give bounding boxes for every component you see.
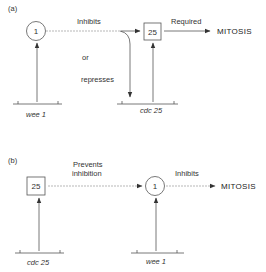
cdc25-node-label-b: 25 bbox=[32, 182, 41, 191]
panel-a: (a) 1 Inhibits or represses 25 Required … bbox=[8, 4, 252, 119]
wee1-gene-label-b: wee 1 bbox=[146, 257, 166, 266]
required-label: Required bbox=[171, 17, 201, 26]
cdc25-protein-node: 25 bbox=[144, 23, 161, 40]
cdc25-gene-label-b: cdc 25 bbox=[27, 258, 50, 267]
wee1-protein-node: 1 bbox=[27, 22, 46, 41]
prevents-label: Prevents bbox=[73, 160, 103, 169]
wee1-protein-node-b: 1 bbox=[146, 177, 165, 196]
cdc25-protein-node-b: 25 bbox=[27, 177, 45, 195]
or-label: or bbox=[82, 53, 89, 62]
wee1-node-label: 1 bbox=[34, 27, 39, 36]
inhibits-label-b: Inhibits bbox=[175, 169, 199, 178]
panel-b-label: (b) bbox=[8, 156, 18, 165]
represses-label: represses bbox=[81, 75, 114, 84]
diagram-canvas: (a) 1 Inhibits or represses 25 Required … bbox=[0, 0, 266, 272]
cdc25-gene-label: cdc 25 bbox=[140, 106, 163, 115]
cdc25-gene: cdc 25 bbox=[117, 43, 178, 115]
cdc25-node-label: 25 bbox=[148, 28, 157, 37]
wee1-gene-b: wee 1 bbox=[131, 198, 184, 266]
represses-arrow bbox=[120, 31, 130, 97]
panel-b: (b) 25 Prevents inhibition 1 Inhibits MI… bbox=[8, 156, 256, 267]
wee1-node-label-b: 1 bbox=[153, 182, 158, 191]
panel-a-label: (a) bbox=[8, 4, 18, 13]
mitosis-label-b: MITOSIS bbox=[221, 182, 256, 191]
inhibits-label: Inhibits bbox=[77, 17, 101, 26]
mitosis-label: MITOSIS bbox=[217, 27, 252, 36]
inhibition-label: inhibition bbox=[72, 169, 102, 178]
wee1-gene: wee 1 bbox=[13, 43, 62, 119]
cdc25-gene-b: cdc 25 bbox=[15, 198, 64, 267]
wee1-gene-label: wee 1 bbox=[26, 110, 46, 119]
